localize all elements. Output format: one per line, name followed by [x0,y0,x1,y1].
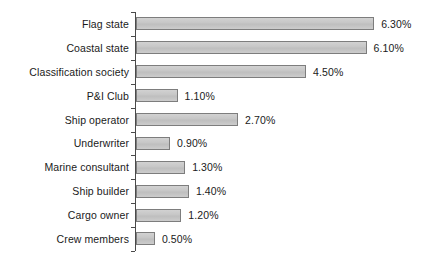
axis-tick [131,60,135,61]
value-label-marine-consultant: 1.30% [192,161,222,173]
bar-underwriter [136,137,170,150]
value-label-cargo-owner: 1.20% [188,209,218,221]
axis-tick [131,179,135,180]
axis-tick [131,132,135,133]
bar-flag-state [136,17,374,30]
bar-row: Coastal state 6.10% [0,36,429,60]
bar-row: Cargo owner 1.20% [0,203,429,227]
category-label-coastal-state: Coastal state [0,36,129,60]
category-label-pandi-club: P&I Club [0,84,129,108]
bar-group-pandi-club: 1.10% [136,84,215,108]
bar-group-coastal-state: 6.10% [136,36,404,60]
value-label-ship-operator: 2.70% [245,114,275,126]
bar-classification-society [136,65,306,78]
value-label-pandi-club: 1.10% [185,90,215,102]
value-label-ship-builder: 1.40% [196,185,226,197]
bar-row: Flag state 6.30% [0,12,429,36]
plot-area: Flag state 6.30% Coastal state 6.10% Cla… [0,0,429,264]
bar-row: Underwriter 0.90% [0,131,429,155]
axis-tick [131,36,135,37]
value-label-coastal-state: 6.10% [374,42,404,54]
bar-ship-builder [136,185,189,198]
category-label-crew-members: Crew members [0,227,129,251]
bar-group-cargo-owner: 1.20% [136,203,219,227]
bar-ship-operator [136,113,238,126]
axis-tick [131,251,135,252]
value-label-classification-society: 4.50% [313,66,343,78]
category-label-marine-consultant: Marine consultant [0,155,129,179]
value-label-flag-state: 6.30% [381,18,411,30]
axis-tick [131,12,135,13]
bar-marine-consultant [136,161,185,174]
axis-tick [131,84,135,85]
category-label-cargo-owner: Cargo owner [0,203,129,227]
bar-cargo-owner [136,209,181,222]
bar-group-crew-members: 0.50% [136,227,192,251]
category-label-flag-state: Flag state [0,12,129,36]
axis-tick [131,203,135,204]
bar-row: Crew members 0.50% [0,227,429,251]
bar-coastal-state [136,41,367,54]
category-label-underwriter: Underwriter [0,131,129,155]
bar-group-classification-society: 4.50% [136,60,343,84]
bar-crew-members [136,232,155,245]
bar-group-underwriter: 0.90% [136,131,207,155]
bar-group-ship-operator: 2.70% [136,108,275,132]
bar-row: P&I Club 1.10% [0,84,429,108]
bar-row: Classification society 4.50% [0,60,429,84]
axis-tick [131,227,135,228]
bar-group-marine-consultant: 1.30% [136,155,222,179]
bar-group-ship-builder: 1.40% [136,179,226,203]
bar-chart: Flag state 6.30% Coastal state 6.10% Cla… [0,0,429,264]
bar-group-flag-state: 6.30% [136,12,411,36]
bar-row: Ship builder 1.40% [0,179,429,203]
category-label-ship-operator: Ship operator [0,108,129,132]
category-label-classification-society: Classification society [0,60,129,84]
axis-tick [131,155,135,156]
bar-row: Ship operator 2.70% [0,108,429,132]
bar-row: Marine consultant 1.30% [0,155,429,179]
value-label-crew-members: 0.50% [162,233,192,245]
category-label-ship-builder: Ship builder [0,179,129,203]
bar-pandi-club [136,89,178,102]
axis-tick [131,108,135,109]
value-label-underwriter: 0.90% [177,137,207,149]
bar-rows: Flag state 6.30% Coastal state 6.10% Cla… [0,12,429,251]
